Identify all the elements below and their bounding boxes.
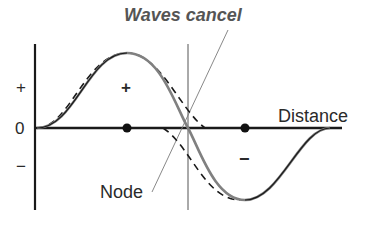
solid-wave (37, 53, 330, 200)
y-label-negative: − (16, 158, 26, 175)
solid-wave-edge (37, 53, 330, 200)
diagram-title: Waves cancel (124, 6, 242, 24)
region-label-negative: − (239, 150, 250, 168)
pointer-line (152, 30, 228, 192)
node-label: Node (100, 183, 143, 201)
antinode-dot-negative (241, 124, 250, 133)
region-label-positive: + (121, 79, 131, 96)
x-axis-label: Distance (278, 107, 348, 125)
dashed-wave (37, 53, 240, 200)
y-label-zero: 0 (15, 120, 24, 137)
antinode-dot-positive (123, 124, 132, 133)
y-label-positive: + (16, 79, 26, 96)
